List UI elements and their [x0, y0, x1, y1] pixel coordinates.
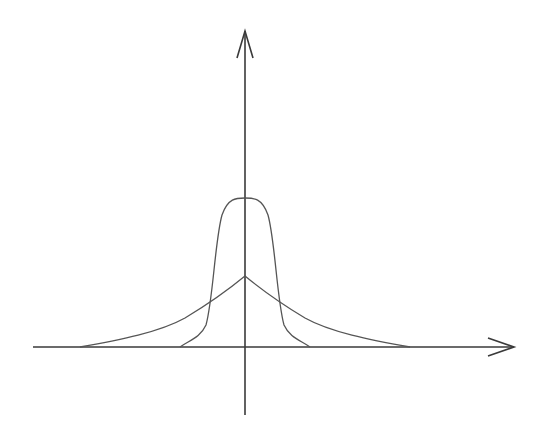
- diagram-svg: [0, 0, 546, 440]
- diagram-canvas: [0, 0, 546, 440]
